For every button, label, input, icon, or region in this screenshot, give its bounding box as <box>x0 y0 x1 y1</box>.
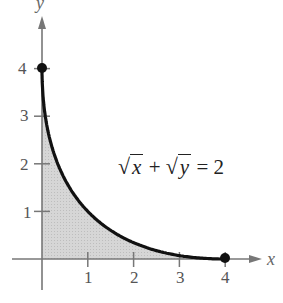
x-tick-label-3: 3 <box>176 269 185 286</box>
y-tick-label-2: 2 <box>20 156 29 173</box>
y-tick-label-4: 4 <box>18 60 27 77</box>
plus-sign: + <box>149 155 161 179</box>
radical-icon: √ <box>118 154 130 179</box>
x-tick-label-4: 4 <box>221 269 230 286</box>
sqrt-x: √x <box>118 156 143 178</box>
y-axis-arrow-icon <box>38 16 46 29</box>
x-axis-arrow-icon <box>249 255 262 263</box>
plot-area <box>0 0 283 303</box>
sqrt-y: √y <box>166 156 191 178</box>
x-axis-label: x <box>267 250 275 268</box>
y-tick-label-1: 1 <box>23 204 32 221</box>
endpoint-0-4 <box>37 63 47 73</box>
y-axis-label: y <box>36 0 44 12</box>
radicand-y: y <box>178 154 191 179</box>
endpoint-4-0 <box>220 253 230 263</box>
radical-icon: √ <box>166 154 178 179</box>
equation-rhs: = 2 <box>196 155 224 179</box>
x-tick-label-2: 2 <box>130 269 139 286</box>
y-tick-label-3: 3 <box>20 107 29 124</box>
radicand-x: x <box>130 154 143 179</box>
curve-equation: √x + √y = 2 <box>118 156 224 178</box>
x-tick-label-1: 1 <box>84 269 93 286</box>
